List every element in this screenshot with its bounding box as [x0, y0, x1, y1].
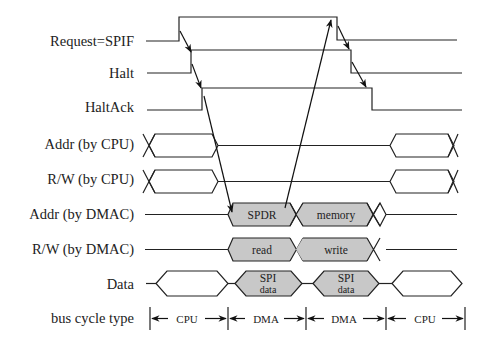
bus-cycle-type: CPU DMA DMA CPU: [150, 307, 465, 330]
waveform-request: [146, 17, 457, 41]
segment-label-spdr: SPDR: [248, 209, 277, 221]
signal-label-haltack: HaltAck: [85, 99, 135, 115]
signal-label-bus-cycle-type: bus cycle type: [51, 310, 134, 326]
svg-text:CPU: CPU: [414, 313, 435, 325]
svg-text:SPI: SPI: [260, 272, 277, 284]
svg-text:SPI: SPI: [338, 272, 355, 284]
waveform-data: SPI data SPI data: [146, 271, 462, 296]
waveform-rw-cpu: [143, 170, 458, 193]
timing-diagram: Request=SPIF Halt HaltAck Addr (by CPU) …: [0, 0, 490, 341]
signal-label-addr-dmac: Addr (by DMAC): [29, 206, 134, 223]
svg-text:DMA: DMA: [253, 313, 279, 325]
svg-text:DMA: DMA: [331, 313, 357, 325]
signal-label-rw-cpu: R/W (by CPU): [47, 171, 134, 188]
waveform-rw-dmac: read write: [145, 238, 457, 261]
svg-text:data: data: [338, 284, 355, 295]
segment-label-memory: memory: [317, 209, 356, 222]
segment-label-write: write: [324, 244, 348, 256]
waveform-haltack: [147, 88, 462, 110]
svg-text:CPU: CPU: [176, 313, 197, 325]
signal-label-request: Request=SPIF: [50, 33, 134, 49]
svg-text:data: data: [260, 284, 277, 295]
signal-label-halt: Halt: [109, 65, 134, 81]
signal-label-rw-dmac: R/W (by DMAC): [32, 241, 134, 258]
segment-label-read: read: [252, 244, 272, 256]
signal-label-data: Data: [107, 276, 135, 292]
waveform-addr-dmac: SPDR memory: [145, 203, 457, 226]
signal-label-addr-cpu: Addr (by CPU): [45, 136, 135, 153]
causality-arrows: [180, 20, 366, 212]
